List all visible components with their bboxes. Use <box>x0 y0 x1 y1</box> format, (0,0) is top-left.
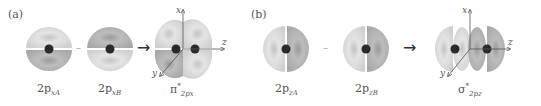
nucleus-icon <box>282 45 291 54</box>
orbital-sigma-star-2pz <box>435 10 510 76</box>
nucleus-icon <box>172 45 181 54</box>
orbital-2pzB <box>343 26 389 72</box>
panel-label-a: (a) <box>8 8 23 21</box>
label-2pzB: 2pzB <box>355 82 378 97</box>
label-2pzA: 2pzA <box>275 82 298 97</box>
axis-label-x: x <box>176 5 181 15</box>
axis-label-x: x <box>462 5 467 15</box>
nucleus-icon <box>45 45 54 54</box>
nucleus-icon <box>362 45 371 54</box>
orbital-2pxB <box>87 27 133 71</box>
nucleus-icon <box>106 45 115 54</box>
orbital-2pzA <box>263 26 309 72</box>
arrow-icon: → <box>137 38 150 57</box>
label-sigma-star-2pz: σ*2pz <box>458 82 482 98</box>
orbital-2pxA <box>26 27 72 71</box>
label-pi-star-2px: σπ*2px <box>170 82 194 98</box>
label-2pxA: 2pxA <box>37 82 60 97</box>
axis-label-z: z <box>221 37 227 47</box>
minus-operator: – <box>323 42 328 53</box>
axis-label-y: y <box>439 68 446 78</box>
nucleus-icon <box>451 45 460 54</box>
axis-label-z: z <box>507 37 513 47</box>
label-2pxB: 2pxB <box>98 82 121 97</box>
axis-label-y: y <box>151 68 158 78</box>
orbital-pi-star-2px <box>155 10 224 79</box>
panel-label-b: (b) <box>251 8 267 21</box>
arrow-icon: → <box>403 38 416 57</box>
minus-operator: – <box>76 42 81 53</box>
